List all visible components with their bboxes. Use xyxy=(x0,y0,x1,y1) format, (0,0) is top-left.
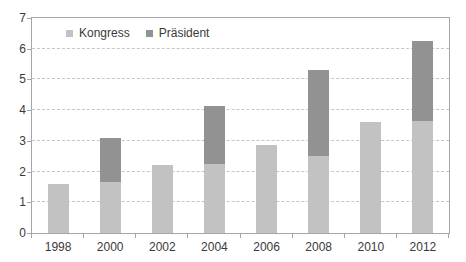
y-axis-label-2: 2 xyxy=(0,165,26,179)
bar-2012-kongress xyxy=(412,121,433,233)
praesident-legend-swatch xyxy=(146,30,153,37)
y-axis-label-5: 5 xyxy=(0,72,26,86)
y-axis-tick-5 xyxy=(27,79,31,80)
bar-2010-kongress xyxy=(360,122,381,233)
x-axis-label-2012: 2012 xyxy=(397,240,449,254)
bar-2008-kongress xyxy=(308,156,329,233)
stacked-bar-chart: Kongress Präsident 012345671998200020022… xyxy=(0,0,466,262)
y-axis-label-4: 4 xyxy=(0,103,26,117)
x-axis-tick-2 xyxy=(135,234,136,238)
y-axis-tick-7 xyxy=(27,18,31,19)
x-axis-label-2008: 2008 xyxy=(293,240,345,254)
x-axis-tick-1 xyxy=(83,234,84,238)
gridline-y5 xyxy=(32,78,449,79)
praesident-legend-label: Präsident xyxy=(159,26,210,40)
bar-2008-praesident xyxy=(308,70,329,156)
x-axis-tick-6 xyxy=(344,234,345,238)
kongress-legend-label: Kongress xyxy=(79,26,130,40)
x-axis-label-2002: 2002 xyxy=(136,240,188,254)
bar-1998-kongress xyxy=(48,184,69,233)
y-axis-label-6: 6 xyxy=(0,42,26,56)
y-axis-tick-6 xyxy=(27,49,31,50)
bar-2000-kongress xyxy=(100,182,121,233)
legend-item-kongress: Kongress xyxy=(66,26,130,40)
y-axis-label-7: 7 xyxy=(0,11,26,25)
y-axis-label-0: 0 xyxy=(0,226,26,240)
x-axis-label-2000: 2000 xyxy=(84,240,136,254)
plot-area: Kongress Präsident xyxy=(31,17,450,234)
legend: Kongress Präsident xyxy=(66,26,209,40)
legend-item-praesident: Präsident xyxy=(146,26,210,40)
x-axis-tick-5 xyxy=(292,234,293,238)
x-axis-tick-8 xyxy=(448,234,449,238)
gridline-y1 xyxy=(32,201,449,202)
bar-2006-kongress xyxy=(256,145,277,233)
x-axis-tick-7 xyxy=(396,234,397,238)
x-axis-label-2004: 2004 xyxy=(188,240,240,254)
x-axis-label-2006: 2006 xyxy=(241,240,293,254)
bar-2004-kongress xyxy=(204,164,225,233)
bar-2004-praesident xyxy=(204,106,225,164)
y-axis-label-1: 1 xyxy=(0,195,26,209)
y-axis-tick-4 xyxy=(27,110,31,111)
gridline-y2 xyxy=(32,171,449,172)
bar-2000-praesident xyxy=(100,138,121,183)
x-axis-label-2010: 2010 xyxy=(345,240,397,254)
gridline-y3 xyxy=(32,140,449,141)
y-axis-tick-1 xyxy=(27,202,31,203)
x-axis-label-1998: 1998 xyxy=(32,240,84,254)
y-axis-label-3: 3 xyxy=(0,134,26,148)
bar-2012-praesident xyxy=(412,41,433,121)
x-axis-tick-0 xyxy=(31,234,32,238)
y-axis-tick-3 xyxy=(27,141,31,142)
x-axis-tick-4 xyxy=(240,234,241,238)
gridline-y6 xyxy=(32,48,449,49)
bar-2002-kongress xyxy=(152,165,173,233)
kongress-legend-swatch xyxy=(66,30,73,37)
x-axis-tick-3 xyxy=(187,234,188,238)
gridline-y4 xyxy=(32,109,449,110)
y-axis-tick-2 xyxy=(27,172,31,173)
